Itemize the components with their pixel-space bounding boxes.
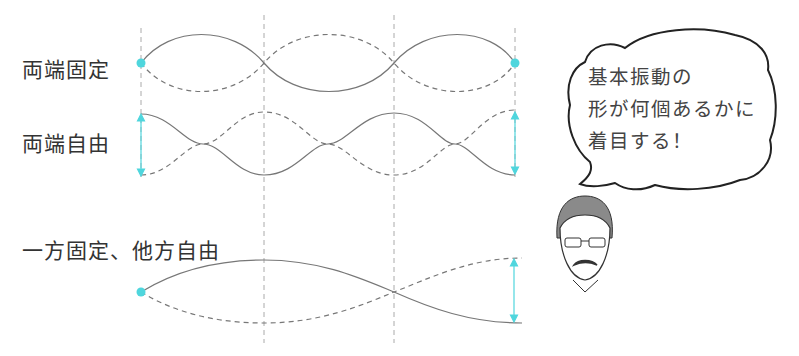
fixed-end-dot xyxy=(137,288,146,297)
bubble-line: 基本振動の xyxy=(588,62,756,94)
wave-fixed-fixed xyxy=(141,35,515,92)
bubble-line: 形が何個あるかに xyxy=(588,94,756,126)
fixed-end-dot xyxy=(137,59,146,68)
bubble-line: 着目する！ xyxy=(588,126,756,158)
wave-fixed-free xyxy=(141,258,522,323)
label-fixed-free: 一方固定、他方自由 xyxy=(22,234,220,264)
label-fixed-fixed: 両端固定 xyxy=(22,53,110,83)
amplitude-arrow xyxy=(511,259,518,322)
fixed-end-dot xyxy=(511,59,520,68)
label-free-free: 両端自由 xyxy=(22,127,110,157)
standing-wave-diagram xyxy=(0,0,799,356)
teacher-avatar xyxy=(557,196,613,292)
guide-lines xyxy=(141,15,515,343)
speech-bubble-text: 基本振動の 形が何個あるかに 着目する！ xyxy=(588,62,756,158)
wave-free-free xyxy=(141,110,515,175)
